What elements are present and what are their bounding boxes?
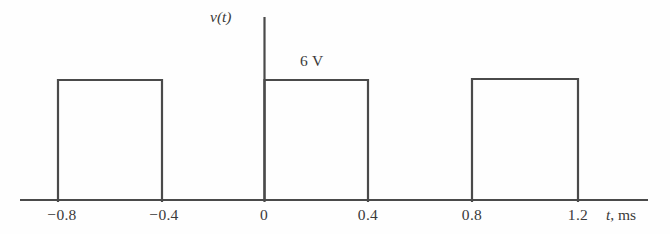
- x-axis-title-units: , ms: [610, 206, 636, 223]
- amplitude-label: 6 V: [300, 52, 323, 70]
- x-tick-label--0.4: −0.4: [149, 206, 178, 224]
- waveform-plot: [0, 0, 670, 234]
- x-tick-label--0.8: −0.8: [47, 206, 76, 224]
- y-axis-title: v(t): [210, 8, 232, 26]
- pulse-1: [58, 80, 162, 202]
- x-tick-label-0: 0: [260, 206, 268, 224]
- x-tick-label-0.8: 0.8: [462, 206, 482, 224]
- pulse-3: [472, 79, 578, 202]
- x-axis-title: t, ms: [606, 206, 636, 224]
- waveform-figure: v(t) 6 V −0.8 −0.4 0 0.4 0.8 1.2 t, ms: [0, 0, 670, 234]
- x-tick-label-1.2: 1.2: [568, 206, 588, 224]
- pulse-2: [265, 80, 369, 202]
- x-tick-label-0.4: 0.4: [358, 206, 378, 224]
